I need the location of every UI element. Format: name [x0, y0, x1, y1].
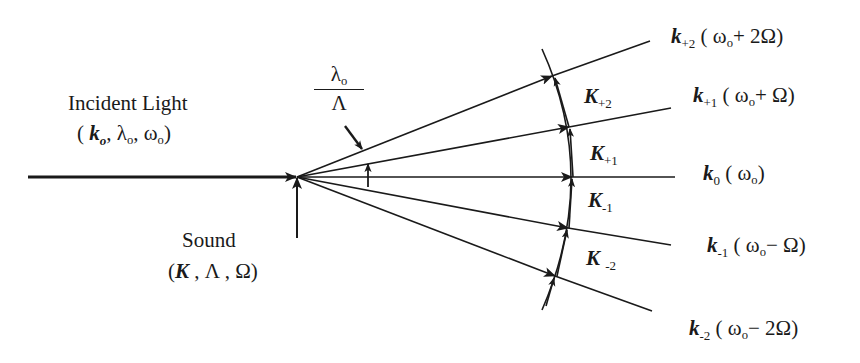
angle-fraction-label: λo Λ — [314, 64, 364, 114]
order-label-plus-2: k+2 ( ωo+ 2Ω) — [671, 26, 783, 50]
paren-open: ( — [77, 121, 84, 145]
k-subscript: 0 — [714, 173, 721, 188]
k-surface-arc — [542, 49, 571, 310]
separator: , — [133, 121, 138, 145]
arc-sound-arrows — [546, 78, 573, 306]
K-symbol: K — [588, 188, 602, 212]
incident-light-params: ( ko, λo, ωo) — [77, 123, 171, 147]
sound-params: (K , Λ , Ω) — [168, 261, 258, 282]
k-subscript: -1 — [718, 245, 729, 260]
fraction-numerator: λo — [314, 64, 364, 90]
frequency: ( ω — [716, 316, 742, 340]
Omega-symbol: Ω — [235, 259, 251, 283]
paren-close: ) — [251, 259, 258, 283]
sound-vector-label-minus-2: K -2 — [586, 248, 616, 272]
lambda-symbol: λ — [331, 62, 341, 86]
sound-vector-label-plus-1: K+1 — [590, 143, 618, 167]
frequency: ( ω — [723, 83, 749, 107]
paren-close: ) — [164, 121, 171, 145]
frequency-shift: + Ω) — [755, 83, 795, 107]
K-symbol: K — [586, 246, 600, 270]
k-symbol: k — [703, 161, 714, 185]
k-subscript: +1 — [704, 95, 718, 110]
order-label-plus-1: k+1 ( ωo+ Ω) — [693, 85, 795, 109]
sound-vector-label-plus-2: K+2 — [584, 86, 612, 110]
frequency: ( ω — [725, 161, 751, 185]
incident-light-title: Incident Light — [68, 93, 188, 114]
k-symbol: k — [693, 83, 704, 107]
frequency-shift: + 2Ω) — [733, 24, 783, 48]
k-symbol: k — [671, 24, 682, 48]
angle-label-pointer — [345, 126, 362, 149]
separator: , — [225, 259, 230, 283]
ray-minus-1 — [297, 177, 671, 245]
k-subscript: -2 — [700, 328, 711, 343]
frequency-shift: − 2Ω) — [748, 316, 798, 340]
K-subscript: -2 — [605, 258, 616, 273]
sound-vector-label-minus-1: K-1 — [588, 190, 613, 214]
k-symbol: k — [689, 316, 700, 340]
K-subscript: +1 — [604, 153, 618, 168]
frequency-shift: − Ω) — [766, 233, 806, 257]
order-label-zero: k0 ( ωo) — [703, 163, 765, 187]
k-symbol: k — [707, 233, 718, 257]
K-symbol: K — [590, 141, 604, 165]
paren-open: ( — [168, 259, 175, 283]
K-subscript: +2 — [598, 96, 612, 111]
separator: , — [194, 259, 199, 283]
k-subscript: +2 — [682, 36, 696, 51]
Lambda-symbol: Λ — [205, 259, 220, 283]
diffraction-diagram: Incident Light ( ko, λo, ωo) Sound (K , … — [0, 0, 860, 363]
frequency-shift: ) — [758, 161, 765, 185]
frequency: ( ω — [734, 233, 760, 257]
frequency: ( ω — [701, 24, 727, 48]
separator: , — [106, 121, 111, 145]
lambda-symbol: λ — [117, 121, 127, 145]
K-symbol: K — [584, 84, 598, 108]
K-subscript: -1 — [602, 200, 613, 215]
order-label-minus-1: k-1 ( ωo− Ω) — [707, 235, 806, 259]
order-label-minus-2: k-2 ( ωo− 2Ω) — [689, 318, 798, 342]
lambda-subscript: o — [341, 74, 347, 88]
K-symbol: K — [175, 259, 189, 283]
sound-title: Sound — [182, 230, 236, 251]
k-symbol: k — [89, 121, 100, 145]
fraction-denominator: Λ — [314, 90, 364, 114]
omega-symbol: ω — [144, 121, 158, 145]
